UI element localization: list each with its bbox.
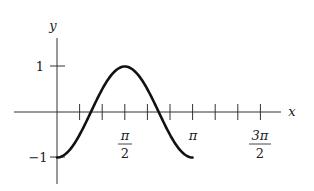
chart: y x 1 −1 π 2 π 3π 2 (0, 0, 314, 191)
x-axis-label: x (288, 104, 296, 119)
pi-half-denominator: 2 (121, 146, 129, 161)
three-pi-half-numerator: 3π (252, 128, 269, 143)
x-tick-label-pi: π (188, 128, 198, 143)
pi-half-numerator: π (120, 128, 130, 143)
y-axis-label: y (48, 18, 57, 33)
three-pi-half-denominator: 2 (256, 146, 264, 161)
x-tick-label-pi-half: π 2 (118, 128, 132, 161)
x-tick-label-three-pi-half: 3π 2 (249, 128, 271, 161)
y-tick-label-neg-1: −1 (28, 150, 47, 165)
y-tick-label-1: 1 (36, 59, 44, 74)
